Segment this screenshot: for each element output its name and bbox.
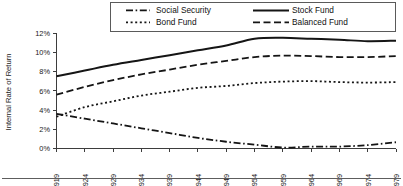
chart-legend: Social SecurityStock FundBond FundBalanc…: [111, 3, 396, 32]
x-tick-label: 1954: [250, 174, 259, 186]
legend-label: Stock Fund: [292, 5, 334, 15]
y-tick-label: 4%: [39, 106, 50, 115]
y-axis-title: Internal Rate of Return: [4, 54, 13, 131]
y-tick-label: 2%: [39, 125, 50, 134]
x-tick-label: 1949: [222, 174, 231, 186]
x-tick-label: 1919: [52, 174, 61, 186]
x-tick-label: 1924: [81, 174, 90, 186]
x-tick-label: 1934: [137, 174, 146, 186]
y-tick-label: 6%: [39, 87, 50, 96]
legend-border: [111, 3, 396, 32]
x-tick-label: 1974: [364, 174, 373, 186]
x-tick-label: 1944: [194, 174, 203, 186]
legend-label: Bond Fund: [156, 17, 197, 27]
y-tick-label: 12%: [35, 29, 50, 38]
legend-label: Social Security: [156, 5, 212, 15]
x-tick-label: 1979: [392, 174, 401, 186]
internal-rate-of-return-line-chart: Internal Rate of Return 0%2%4%6%8%10%12%…: [0, 0, 403, 186]
x-tick-label: 1959: [279, 174, 288, 186]
x-tick-label: 1964: [307, 174, 316, 186]
legend-label: Balanced Fund: [292, 17, 348, 27]
chart-figure: Internal Rate of Return 0%2%4%6%8%10%12%…: [0, 0, 403, 186]
y-tick-label: 0%: [39, 144, 50, 153]
x-tick-label: 1939: [165, 174, 174, 186]
y-tick-label: 10%: [35, 48, 50, 57]
x-tick-label: 1929: [109, 174, 118, 186]
y-axis-title-text: Internal Rate of Return: [4, 54, 13, 131]
x-tick-label: 1969: [335, 174, 344, 186]
y-tick-label: 8%: [39, 67, 50, 76]
